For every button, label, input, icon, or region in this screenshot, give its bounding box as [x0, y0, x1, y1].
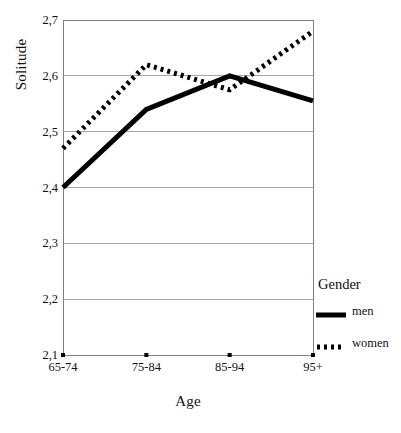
legend-label-women: women	[352, 337, 389, 350]
x-axis-tick-label: 85-94	[215, 361, 244, 374]
legend-item-men: men	[316, 300, 401, 322]
legend-item-women: women	[316, 332, 401, 354]
x-axis-tick-label: 75-84	[132, 361, 161, 374]
legend-swatch-dotted-icon	[316, 338, 346, 348]
line-chart: Solitude 2,72,62,52,42,32,22,1 65-7475-8…	[0, 0, 401, 433]
x-axis-tick-label: 65-74	[48, 361, 77, 374]
legend-title: Gender	[318, 276, 401, 292]
legend-swatch-solid-icon	[316, 306, 346, 316]
chart-legend: Gender men women	[316, 276, 401, 364]
legend-label-men: men	[352, 305, 374, 318]
x-axis-title: Age	[63, 393, 313, 410]
x-axis-tick-labels: 65-7475-8485-9495+	[0, 0, 401, 433]
